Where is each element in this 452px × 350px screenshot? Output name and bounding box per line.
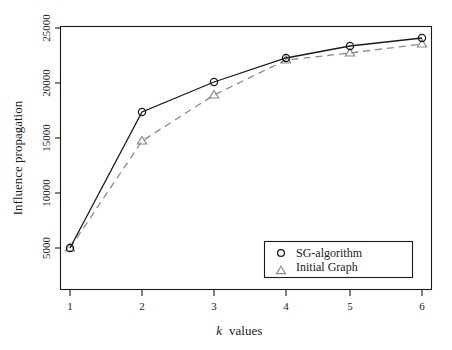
y-tick-label: 10000 <box>40 179 52 207</box>
x-tick-label: 5 <box>347 300 353 312</box>
legend-label-sg-algorithm: SG-algorithm <box>296 246 363 260</box>
x-axis-title-k: k <box>216 323 222 338</box>
chart-figure: 5000 10000 15000 20000 25000 1 2 3 4 5 6… <box>0 0 452 350</box>
x-tick-label: 2 <box>139 300 145 312</box>
line-chart: 5000 10000 15000 20000 25000 1 2 3 4 5 6… <box>0 0 452 350</box>
y-tick-label: 5000 <box>40 237 52 260</box>
y-tick-label: 20000 <box>40 69 52 97</box>
chart-background <box>0 0 452 350</box>
x-axis-title-values: values <box>229 323 262 338</box>
x-tick-label: 6 <box>419 300 425 312</box>
y-axis-title: Influence propagation <box>10 100 25 215</box>
legend-label-initial-graph: Initial Graph <box>296 260 358 274</box>
y-tick-label: 15000 <box>40 124 52 152</box>
x-tick-label: 1 <box>67 300 73 312</box>
y-tick-label: 25000 <box>40 14 52 42</box>
x-tick-label: 3 <box>211 300 217 312</box>
x-tick-label: 4 <box>283 300 289 312</box>
chart-legend: SG-algorithm Initial Graph <box>265 242 413 278</box>
